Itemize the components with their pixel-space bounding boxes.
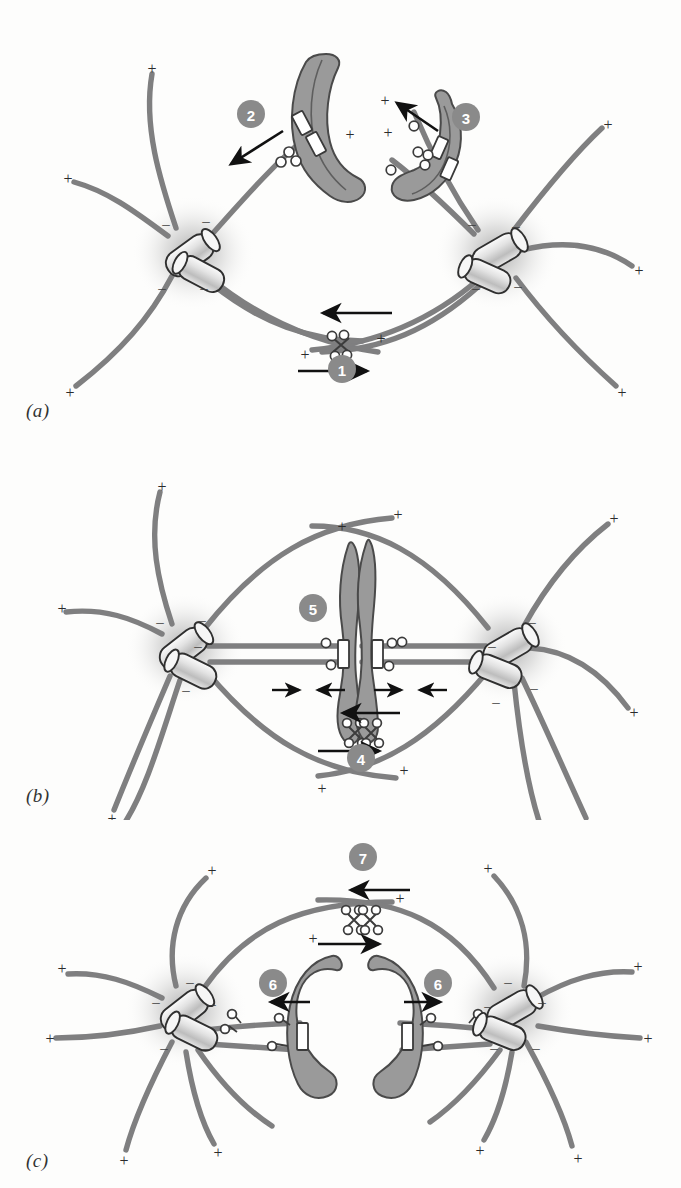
panel-a-label: (a) <box>26 400 50 422</box>
plus-marker: + <box>573 1150 582 1167</box>
minus-marker: – <box>511 218 520 234</box>
minus-marker: – <box>487 638 496 654</box>
plus-marker: + <box>376 330 385 347</box>
badge-1-number: 1 <box>338 362 346 379</box>
kinetochore-motors-right <box>386 121 433 175</box>
minus-marker: – <box>201 1040 210 1056</box>
plus-marker: + <box>345 126 354 143</box>
plus-marker: + <box>383 124 392 141</box>
plus-marker: + <box>147 60 156 77</box>
badge-7: 7 <box>349 843 377 871</box>
minus-marker: – <box>527 614 536 630</box>
badge-4: 4 <box>347 744 375 772</box>
minus-marker: – <box>207 996 216 1012</box>
plus-marker: + <box>633 958 642 975</box>
chromatid-left <box>287 956 342 1098</box>
plus-marker: + <box>45 1030 54 1047</box>
plus-marker: + <box>393 506 402 523</box>
force-arrows <box>231 103 438 371</box>
minus-marker: – <box>489 1040 498 1056</box>
minus-marker: – <box>491 694 500 710</box>
kinetochores-anaphase <box>297 1023 413 1050</box>
plus-marker: + <box>300 346 309 363</box>
plus-marker: + <box>308 930 317 947</box>
minus-marker: – <box>199 280 208 296</box>
minus-marker: – <box>161 216 170 232</box>
badge-7-number: 7 <box>359 850 367 867</box>
badge-3-number: 3 <box>462 110 470 127</box>
arrow-polar-ejection <box>231 131 283 164</box>
plus-marker: + <box>643 1030 652 1047</box>
minus-marker: – <box>529 680 538 696</box>
badge-1: 1 <box>328 355 356 383</box>
plus-marker: + <box>609 510 618 527</box>
plus-marker: + <box>213 1144 222 1161</box>
plus-marker: + <box>617 384 626 401</box>
minus-marker: – <box>151 994 160 1010</box>
badge-6-right-number: 6 <box>434 976 442 993</box>
minus-marker: – <box>197 612 206 628</box>
minus-marker: – <box>201 213 210 229</box>
minus-marker: – <box>537 994 546 1010</box>
panel-c-label: (c) <box>26 1150 49 1172</box>
plus-marker: + <box>629 704 638 721</box>
plus-marker: + <box>395 890 404 907</box>
plus-marker: + <box>119 1152 128 1169</box>
minus-marker: – <box>471 280 480 296</box>
panel-c-anaphase: + + + + + + + + + + + + <box>0 820 681 1188</box>
badge-3: 3 <box>452 103 480 131</box>
panel-b-metaphase: + + + + + + + + + + <box>0 440 681 820</box>
plus-marker: + <box>475 1142 484 1159</box>
plus-marker: + <box>157 478 166 495</box>
badge-5: 5 <box>299 594 327 622</box>
mitotic-spindle-figure: + + + + + + + + + + + <box>0 0 681 1188</box>
minus-marker: – <box>159 1040 168 1056</box>
badge-2: 2 <box>237 100 265 128</box>
minus-marker: – <box>157 280 166 296</box>
minus-marker: – <box>185 974 194 990</box>
minus-marker: – <box>181 682 190 698</box>
minus-marker: – <box>531 1040 540 1056</box>
minus-marker: – <box>467 216 476 232</box>
minus-marker: – <box>193 638 202 654</box>
badge-6-left-number: 6 <box>269 976 277 993</box>
badge-4-number: 4 <box>357 751 366 768</box>
plus-marker: + <box>380 92 389 109</box>
badge-6-left: 6 <box>259 969 287 997</box>
minus-marker: – <box>155 614 164 630</box>
minus-marker: – <box>503 974 512 990</box>
minus-marker: – <box>483 998 492 1014</box>
badge-6-right: 6 <box>424 969 452 997</box>
panel-a-prometaphase: + + + + + + + + + + + <box>0 0 681 440</box>
plus-marker: + <box>337 518 346 535</box>
plus-marker: + <box>399 762 408 779</box>
plus-marker: + <box>63 170 72 187</box>
plus-marker: + <box>207 862 216 879</box>
kinetochore-microtubules <box>206 1023 492 1050</box>
plus-marker: + <box>634 262 643 279</box>
plus-marker: + <box>65 384 74 401</box>
plus-marker: + <box>603 116 612 133</box>
plus-marker: + <box>57 960 66 977</box>
panel-b-label: (b) <box>26 785 50 807</box>
chromatid-right <box>368 956 423 1098</box>
badge-2-number: 2 <box>247 107 255 124</box>
badge-5-number: 5 <box>309 601 317 618</box>
bipolar-kinesin-motor <box>342 906 383 935</box>
minus-marker: – <box>513 278 522 294</box>
plus-marker: + <box>107 810 116 821</box>
plus-marker: + <box>57 600 66 617</box>
plus-marker: + <box>317 780 326 797</box>
plus-marker: + <box>483 860 492 877</box>
